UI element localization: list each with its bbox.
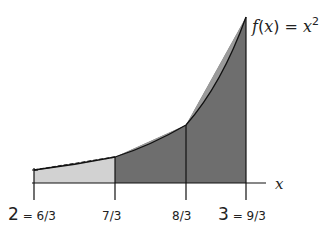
tick-label-2: 2 = 6/3 bbox=[8, 204, 56, 224]
tick-label-7-3: 7/3 bbox=[102, 209, 121, 223]
tick-label-8-3: 8/3 bbox=[172, 209, 191, 223]
trapezoid-diagram: x f(x) = x2 2 = 6/3 7/3 8/3 3 = 9/3 bbox=[0, 0, 333, 238]
x-axis-label: x bbox=[275, 175, 284, 193]
trapezoid-3 bbox=[186, 17, 246, 183]
function-label: f(x) = x2 bbox=[251, 15, 319, 36]
trapezoid-1 bbox=[34, 157, 115, 183]
tick-label-3: 3 = 9/3 bbox=[218, 204, 266, 224]
